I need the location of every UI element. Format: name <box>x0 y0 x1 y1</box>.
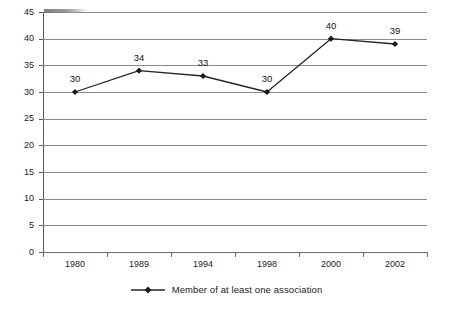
legend-label-member-of-at-least-one-association: Member of at least one association <box>172 284 323 295</box>
data-point-marker-1994 <box>200 73 206 79</box>
data-label-1998: 30 <box>247 74 287 84</box>
series-markers <box>72 36 398 96</box>
line-chart-figure: 051015202530354045 198019891994199820002… <box>0 0 452 311</box>
chart-legend: Member of at least one association <box>0 284 452 295</box>
series-layer <box>0 0 452 311</box>
data-label-1980: 30 <box>55 74 95 84</box>
data-label-1994: 33 <box>183 58 223 68</box>
data-label-2000: 40 <box>311 21 351 31</box>
legend-line-marker-icon <box>130 285 166 295</box>
data-label-2002: 39 <box>375 26 415 36</box>
series-line-member-of-at-least-one-association <box>75 39 395 92</box>
data-point-marker-1980 <box>72 89 78 95</box>
data-point-marker-2002 <box>392 41 398 47</box>
data-label-1989: 34 <box>119 53 159 63</box>
data-point-marker-1989 <box>136 68 142 74</box>
